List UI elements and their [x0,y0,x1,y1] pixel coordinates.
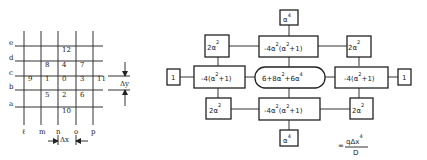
stencil-left: -4(α2+1) [194,66,245,88]
grid-row-label: d [9,54,14,62]
grid-row-label: c [9,69,13,77]
formula-numerator: qΔx [346,138,359,146]
grid-col-label: p [91,128,96,136]
grid-node-label: 12 [62,46,71,54]
finite-difference-grid: edcba ℓmnop 1284791031152610 Δx Δy [9,31,130,145]
stencil-right: -4(α2+1) [335,67,388,88]
grid-col-label: n [56,128,61,136]
grid-row-label: b [9,83,14,91]
grid-node-label: 6 [80,91,85,99]
stencil-top-alpha4: α4 [280,10,298,25]
stencil-diagram: α4 2α2 -4α2(α2+1) 2α2 1 -4(α2+1) [167,10,411,157]
stencil-upper-left: 2α2 [205,35,229,57]
svg-text:qΔx4: qΔx4 [346,133,363,146]
grid-node-label: 5 [45,91,49,99]
stencil-lower-left: 2α2 [206,98,231,119]
delta-y-dimension: Δy [108,62,130,106]
grid-node-label: 2 [62,91,66,99]
stencil-multiplier-formula: = qΔx4 D [338,133,368,157]
grid-node-label: 10 [62,107,71,115]
svg-text:1: 1 [402,74,406,82]
formula-equals: = [338,142,344,150]
formula-numerator-exp: 4 [359,133,362,139]
delta-x-label: Δx [60,136,69,144]
stencil-bottom-alpha4: α4 [280,130,298,146]
delta-y-label: Δy [120,80,129,88]
grid-row-label: a [9,100,13,108]
diagram-canvas: edcba ℓmnop 1284791031152610 Δx Δy [0,0,427,160]
grid-node-labels: 1284791031152610 [28,46,106,116]
grid-node-label: 3 [80,75,84,83]
grid-node-label: 8 [45,61,49,69]
grid-row-labels: edcba [9,39,14,108]
stencil-center: 6+8α2+6α4 [255,67,325,88]
stencil-upper-center: -4α2(α2+1) [259,36,318,57]
grid-node-label: 11 [97,75,106,83]
grid-col-labels: ℓmnop [22,128,96,136]
grid-col-label: ℓ [22,128,25,136]
grid-node-label: 4 [62,61,67,69]
stencil-lower-center: -4α2(α2+1) [259,98,320,120]
grid-node-label: 0 [62,75,66,83]
stencil-far-right: 1 [398,69,411,85]
grid-col-label: o [74,128,78,136]
stencil-lower-right: 2α2 [350,98,373,119]
svg-text:1: 1 [171,74,175,82]
grid-node-label: 7 [80,61,84,69]
grid-node-label: 9 [28,75,32,83]
grid-row-label: e [9,39,13,47]
formula-denominator: D [353,149,358,157]
stencil-far-left: 1 [167,69,180,85]
delta-x-dimension: Δx [48,135,88,145]
grid-node-label: 1 [45,75,49,83]
grid-col-label: m [39,128,46,136]
stencil-upper-right: 2α2 [347,36,371,57]
